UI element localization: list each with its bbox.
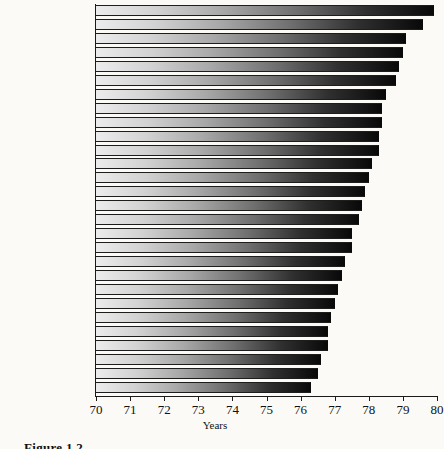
bar-row: Kuwait (96, 312, 437, 323)
bar-row: France (96, 89, 437, 100)
bar (96, 5, 434, 16)
bar-row: Finland (96, 256, 437, 267)
bar-row: Taiwan (96, 326, 437, 337)
x-tick (198, 396, 199, 401)
x-axis-title: Years (0, 419, 444, 431)
bar-row: Germany (96, 284, 437, 295)
bar (96, 117, 382, 128)
bar-row: Sweden (96, 47, 437, 58)
bar-row: Belgium (96, 242, 437, 253)
bar-row: United States (96, 382, 437, 393)
bar-row: Italy (96, 131, 437, 142)
bar (96, 61, 399, 72)
x-tick (267, 396, 268, 401)
x-tick (232, 396, 233, 401)
bar-row: Spain (96, 200, 437, 211)
bar (96, 242, 352, 253)
bar (96, 33, 406, 44)
bar-row: Israel (96, 117, 437, 128)
bar (96, 89, 386, 100)
bar (96, 354, 321, 365)
bar-row: Canada (96, 33, 437, 44)
bar-row: Cyprus (96, 298, 437, 309)
bar (96, 270, 342, 281)
bar (96, 186, 365, 197)
bar (96, 158, 372, 169)
x-axis-title-text: Years (203, 419, 228, 431)
bar-row: Montenegro (96, 368, 437, 379)
bar-row: Switzerland (96, 61, 437, 72)
bar (96, 340, 328, 351)
x-tick (403, 396, 404, 401)
bar (96, 312, 331, 323)
bar (96, 47, 403, 58)
plot-area: JapanAustraliaCanadaSwedenSwitzerlandIce… (96, 4, 437, 394)
bar (96, 200, 362, 211)
bar-row: Australia (96, 19, 437, 30)
bar-row: Austria (96, 228, 437, 239)
x-tick (164, 396, 165, 401)
bar (96, 103, 382, 114)
bar (96, 172, 369, 183)
bar-row: Netherlands (96, 186, 437, 197)
x-tick (130, 396, 131, 401)
bar (96, 228, 352, 239)
x-tick-label: 80 (417, 402, 444, 418)
bar (96, 284, 338, 295)
bar (96, 214, 359, 225)
x-tick (437, 396, 438, 401)
figure-caption: Figure 1.2 (24, 440, 83, 449)
bar-row: Denmark (96, 340, 437, 351)
bar-row: United Kingdom (96, 270, 437, 281)
bar (96, 145, 379, 156)
bar-row: Ireland (96, 354, 437, 365)
bar (96, 368, 318, 379)
bar (96, 75, 396, 86)
x-tick (335, 396, 336, 401)
bar (96, 256, 345, 267)
bar (96, 19, 423, 30)
bar (96, 382, 311, 393)
bar-row: Greece (96, 158, 437, 169)
life-expectancy-bar-chart: JapanAustraliaCanadaSwedenSwitzerlandIce… (0, 0, 444, 449)
bar-row: Iceland (96, 75, 437, 86)
bar (96, 326, 328, 337)
bar-row: Singapore (96, 103, 437, 114)
bar-row: Norway (96, 172, 437, 183)
bar-row: Japan (96, 5, 437, 16)
bar-row: Monaco (96, 145, 437, 156)
x-tick (96, 396, 97, 401)
bar (96, 131, 379, 142)
bar (96, 298, 335, 309)
bar-row: New Zealand (96, 214, 437, 225)
x-tick (301, 396, 302, 401)
x-tick (369, 396, 370, 401)
